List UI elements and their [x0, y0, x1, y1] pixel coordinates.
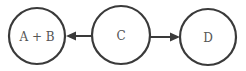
- edge-c-to-ab: [66, 32, 92, 41]
- node-ab: A + B: [9, 8, 65, 64]
- node-c: C: [92, 6, 150, 64]
- edge-c-to-d: [150, 33, 180, 42]
- node-label: D: [203, 31, 213, 45]
- node-label: A + B: [18, 30, 54, 44]
- node-label: C: [116, 29, 125, 43]
- arrowhead-icon: [66, 32, 76, 41]
- diagram-canvas: A + B C D: [0, 0, 246, 71]
- node-d: D: [180, 9, 236, 65]
- arrowhead-icon: [170, 33, 180, 42]
